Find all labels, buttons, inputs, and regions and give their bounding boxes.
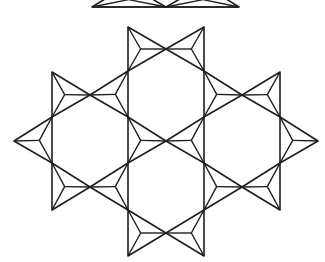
subdivided-triangle <box>166 27 204 71</box>
subdivided-triangle <box>128 210 166 256</box>
subdivided-triangle <box>52 72 90 117</box>
subdivided-triangle <box>90 71 128 117</box>
subdivided-triangle <box>204 163 242 210</box>
subdivided-triangle <box>14 117 52 163</box>
subdivided-triangle <box>242 163 280 210</box>
triangle-tiles <box>14 0 318 256</box>
subdivided-triangle <box>128 117 166 163</box>
subdivided-triangle <box>166 210 204 256</box>
subdivided-triangle <box>242 72 280 117</box>
partial-triangle <box>166 0 239 7</box>
subdivided-triangle <box>52 163 90 210</box>
subdivided-triangle <box>90 163 128 210</box>
subdivided-triangle <box>280 117 318 163</box>
subdivided-triangle <box>166 117 204 163</box>
subdivided-triangle <box>204 71 242 117</box>
triangle-tiling-diagram <box>0 0 325 262</box>
subdivided-triangle <box>128 27 166 71</box>
partial-triangle <box>92 0 166 7</box>
